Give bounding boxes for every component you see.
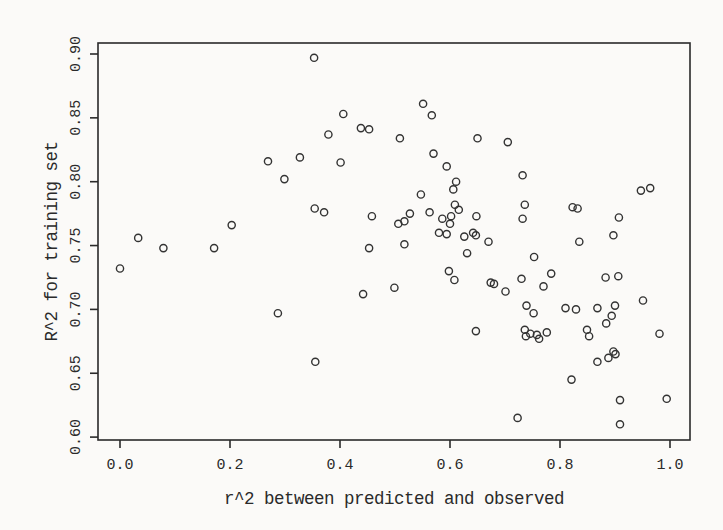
- data-point: [360, 291, 367, 298]
- data-point: [663, 395, 670, 402]
- data-point: [615, 273, 622, 280]
- y-tick-label: 0.65: [68, 355, 85, 391]
- data-point: [453, 178, 460, 185]
- data-point: [435, 229, 442, 236]
- data-point: [430, 150, 437, 157]
- data-point: [543, 329, 550, 336]
- figure-page: 0.00.20.40.60.81.00.600.650.700.750.800.…: [0, 0, 723, 530]
- data-point: [274, 310, 281, 317]
- y-tick-label: 0.75: [68, 228, 85, 264]
- data-point: [401, 218, 408, 225]
- data-point: [281, 176, 288, 183]
- x-axis-label: r^2 between predicted and observed: [224, 489, 564, 509]
- y-tick-label: 0.80: [68, 164, 85, 200]
- data-point: [594, 358, 601, 365]
- data-point: [519, 172, 526, 179]
- data-point: [548, 270, 555, 277]
- data-point: [611, 302, 618, 309]
- data-point: [461, 233, 468, 240]
- data-point: [540, 283, 547, 290]
- data-point: [569, 204, 576, 211]
- data-point: [615, 214, 622, 221]
- data-point: [586, 333, 593, 340]
- data-point: [572, 306, 579, 313]
- data-point: [450, 186, 457, 193]
- data-point: [401, 241, 408, 248]
- data-point: [616, 421, 623, 428]
- data-point: [357, 125, 364, 132]
- data-point: [603, 320, 610, 327]
- data-point: [417, 191, 424, 198]
- data-point: [443, 163, 450, 170]
- data-point: [637, 187, 644, 194]
- data-point: [647, 185, 654, 192]
- plot-canvas: 0.00.20.40.60.81.00.600.650.700.750.800.…: [0, 0, 723, 530]
- data-point: [366, 245, 373, 252]
- data-point: [368, 213, 375, 220]
- data-point: [135, 234, 142, 241]
- data-point: [311, 205, 318, 212]
- data-point: [562, 305, 569, 312]
- data-point: [446, 220, 453, 227]
- y-tick-label: 0.85: [68, 100, 85, 136]
- x-tick-label: 0.0: [106, 457, 133, 474]
- data-point: [519, 215, 526, 222]
- data-point: [523, 302, 530, 309]
- data-point: [448, 213, 455, 220]
- y-axis-label: R^2 for training set: [42, 141, 62, 341]
- data-point: [639, 297, 646, 304]
- data-point: [340, 110, 347, 117]
- data-point: [473, 213, 480, 220]
- data-point: [311, 54, 318, 61]
- data-point: [605, 354, 612, 361]
- data-point: [455, 206, 462, 213]
- data-point: [464, 250, 471, 257]
- y-tick-label: 0.60: [68, 419, 85, 455]
- data-point: [325, 131, 332, 138]
- data-point: [608, 312, 615, 319]
- x-tick-label: 0.6: [436, 457, 463, 474]
- x-tick-label: 1.0: [656, 457, 683, 474]
- data-point: [521, 201, 528, 208]
- data-point: [264, 158, 271, 165]
- data-point: [502, 288, 509, 295]
- data-point: [656, 330, 663, 337]
- data-point: [337, 159, 344, 166]
- x-tick-label: 0.4: [326, 457, 353, 474]
- data-point: [396, 135, 403, 142]
- data-point: [445, 268, 452, 275]
- data-point: [531, 253, 538, 260]
- data-point: [426, 209, 433, 216]
- data-point: [420, 100, 427, 107]
- y-tick-label: 0.90: [68, 36, 85, 72]
- data-point: [439, 215, 446, 222]
- data-point: [406, 210, 413, 217]
- data-point: [530, 310, 537, 317]
- data-point: [610, 232, 617, 239]
- data-point: [518, 275, 525, 282]
- y-tick-label: 0.70: [68, 291, 85, 327]
- data-point: [576, 238, 583, 245]
- data-point: [428, 112, 435, 119]
- data-point: [485, 238, 492, 245]
- data-point: [366, 126, 373, 133]
- data-point: [160, 245, 167, 252]
- data-point: [391, 284, 398, 291]
- x-tick-label: 0.8: [546, 457, 573, 474]
- data-point: [228, 222, 235, 229]
- data-point: [321, 209, 328, 216]
- data-point: [296, 154, 303, 161]
- data-point: [594, 305, 601, 312]
- data-point: [574, 205, 581, 212]
- x-tick-label: 0.2: [216, 457, 243, 474]
- data-point: [504, 139, 511, 146]
- scatter-plot: 0.00.20.40.60.81.00.600.650.700.750.800.…: [0, 0, 723, 530]
- data-point: [451, 276, 458, 283]
- data-point: [211, 245, 218, 252]
- data-point: [616, 397, 623, 404]
- data-point: [474, 135, 481, 142]
- data-point: [514, 414, 521, 421]
- data-point: [602, 274, 609, 281]
- data-point: [116, 265, 123, 272]
- data-point: [312, 358, 319, 365]
